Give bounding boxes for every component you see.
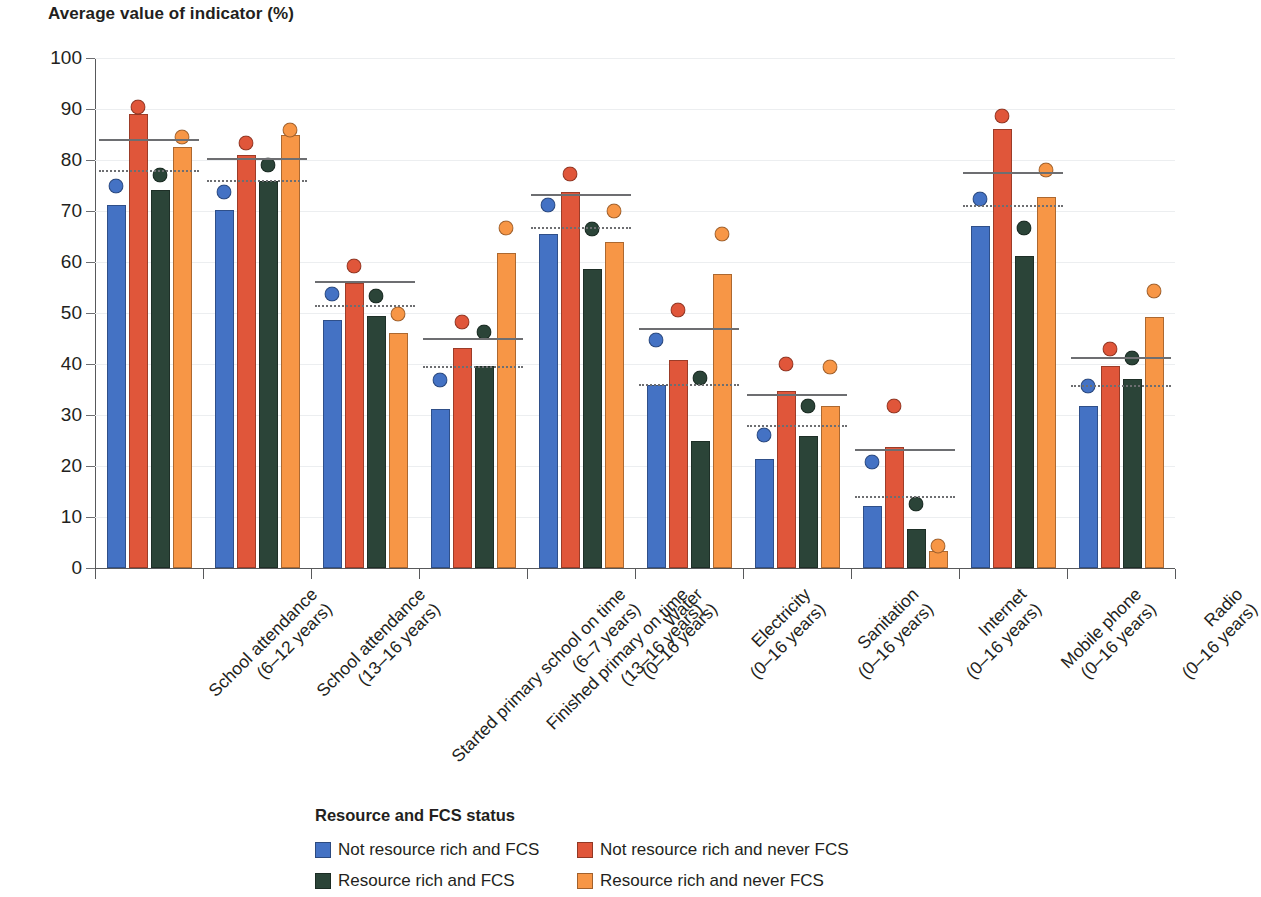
reference-line-dotted [531,227,631,229]
bar [453,348,472,568]
reference-line-solid [315,281,415,283]
reference-line-solid [99,139,199,141]
bar [583,269,602,568]
data-point-marker [887,399,902,414]
gridline [95,466,1175,467]
bar [1101,366,1120,568]
y-axis-tick-mark [86,364,95,365]
legend-item[interactable]: Resource rich and FCS [315,871,577,891]
data-point-marker [109,179,124,194]
legend-item-label: Not resource rich and never FCS [600,840,849,860]
reference-line-solid [747,394,847,396]
reference-line-dotted [855,496,955,498]
y-axis-tick-label: 50 [61,302,82,324]
y-axis-tick-mark [86,415,95,416]
legend-item[interactable]: Not resource rich and FCS [315,840,577,860]
y-axis-tick-label: 20 [61,455,82,477]
data-point-marker [823,360,838,375]
y-axis-tick-label: 100 [50,47,82,69]
reference-line-dotted [747,425,847,427]
data-point-marker [477,324,492,339]
x-axis-category-label: Mobile phone(0–16 years) [1057,584,1160,687]
bar [971,226,990,568]
data-point-marker [217,184,232,199]
bar [647,385,666,568]
bar [669,360,688,568]
reference-line-dotted [423,366,523,368]
data-point-marker [931,538,946,553]
bar [129,114,148,568]
legend-title: Resource and FCS status [315,806,1195,825]
y-axis-tick-mark [86,58,95,59]
bar [1079,406,1098,568]
gridline [95,109,1175,110]
data-point-marker [1039,162,1054,177]
bar [561,192,580,568]
y-axis-tick-label: 30 [61,404,82,426]
legend-swatch-icon [315,873,331,889]
bar [107,205,126,568]
data-point-marker [973,192,988,207]
bar [281,135,300,569]
bar [821,406,840,568]
reference-line-solid [963,172,1063,174]
data-point-marker [909,496,924,511]
bar [1015,256,1034,568]
reference-line-dotted [99,170,199,172]
bar [605,242,624,568]
bar [885,447,904,568]
bar [713,274,732,568]
data-point-marker [563,167,578,182]
legend-swatch-icon [577,842,593,858]
data-point-marker [1017,220,1032,235]
reference-line-dotted [207,180,307,182]
x-axis-tick-mark [95,569,96,579]
chart-axis-title: Average value of indicator (%) [48,4,294,24]
reference-line-solid [423,338,523,340]
legend-item[interactable]: Resource rich and never FCS [577,871,1195,891]
bar [237,155,256,568]
data-point-marker [801,399,816,414]
reference-line-dotted [315,305,415,307]
data-point-marker [649,332,664,347]
gridline [95,211,1175,212]
x-axis-tick-mark [1067,569,1068,579]
legend-item[interactable]: Not resource rich and never FCS [577,840,1195,860]
y-axis-tick-mark [86,211,95,212]
bar [431,409,450,568]
reference-line-dotted [639,384,739,386]
gridline [95,364,1175,365]
y-axis-tick-mark [86,262,95,263]
y-axis-tick-label: 90 [61,98,82,120]
data-point-marker [757,428,772,443]
legend-item-label: Not resource rich and FCS [338,840,539,860]
x-axis-tick-mark [851,569,852,579]
gridline [95,517,1175,518]
y-axis-tick-label: 70 [61,200,82,222]
data-point-marker [607,204,622,219]
bar [777,391,796,568]
y-axis-tick-label: 10 [61,506,82,528]
reference-line-dotted [963,205,1063,207]
bar [345,283,364,568]
data-point-marker [499,220,514,235]
plot-area [95,58,1175,568]
bar [389,333,408,568]
bar [497,253,516,568]
y-axis-tick-label: 40 [61,353,82,375]
bar [799,436,818,568]
x-axis-tick-mark [419,569,420,579]
bar [1037,197,1056,568]
x-axis-category-label: School attendance(6–12 years) [204,584,336,716]
gridline [95,415,1175,416]
legend-swatch-icon [577,873,593,889]
x-axis-category-label: Sanitation(0–16 years) [839,584,938,683]
data-point-marker [779,357,794,372]
data-point-marker [239,135,254,150]
x-axis-tick-mark [635,569,636,579]
data-point-marker [715,226,730,241]
data-point-marker [369,288,384,303]
legend-items: Not resource rich and FCSNot resource ri… [315,834,1195,896]
bar [151,190,170,568]
